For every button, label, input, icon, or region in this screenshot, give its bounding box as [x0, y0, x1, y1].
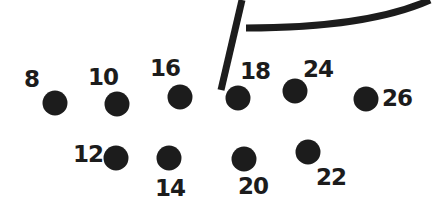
dot-label-16: 16: [150, 57, 180, 80]
dot-label-8: 8: [24, 68, 39, 91]
dot-14: [157, 146, 182, 171]
dot-8: [43, 91, 68, 116]
dot-label-12: 12: [73, 143, 103, 166]
dot-label-14: 14: [155, 177, 185, 200]
dot-10: [105, 92, 130, 117]
dot-label-10: 10: [88, 66, 118, 89]
dot-label-20: 20: [238, 175, 268, 198]
dot-22: [296, 140, 321, 165]
dot-18: [226, 86, 251, 111]
stroke-curve: [246, 0, 430, 28]
dot-26: [354, 87, 379, 112]
puzzle-drawing: [0, 0, 438, 214]
dot-label-24: 24: [303, 58, 333, 81]
dot-12: [104, 146, 129, 171]
dot-label-18: 18: [240, 60, 270, 83]
dot-label-22: 22: [316, 166, 346, 189]
dot-label-26: 26: [382, 87, 412, 110]
dot-16: [168, 85, 193, 110]
dot-24: [283, 79, 308, 104]
stroke-vertical-line: [221, 0, 242, 90]
dot-20: [232, 147, 257, 172]
